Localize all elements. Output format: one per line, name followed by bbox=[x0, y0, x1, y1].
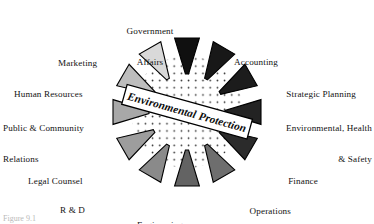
figure-caption: Figure 9.1 bbox=[3, 214, 36, 223]
label-line-1: Accounting bbox=[218, 57, 278, 67]
label-line-1: Public & Community bbox=[3, 123, 107, 133]
label-line-2: Affairs bbox=[120, 57, 180, 67]
label-line-1: Engineering bbox=[122, 220, 198, 224]
figure-environmental-protection-wheel: Environmental Protection Government Affa… bbox=[0, 0, 374, 224]
label-line-2: Relations bbox=[3, 154, 107, 164]
wedge-label-operations: Operations bbox=[221, 185, 291, 224]
label-line-1: Government bbox=[120, 26, 180, 36]
label-line-1: Marketing bbox=[58, 58, 116, 68]
label-line-1: Human Resources bbox=[14, 89, 110, 99]
label-line-1: Environmental, Health bbox=[262, 123, 372, 133]
wedge-label-marketing: Marketing bbox=[58, 37, 116, 89]
label-line-1: Strategic Planning bbox=[256, 89, 356, 99]
wedge-label-engineering: Engineering bbox=[122, 199, 198, 224]
label-line-1: Operations bbox=[221, 206, 291, 216]
wedge-label-government-affairs: Government Affairs bbox=[120, 5, 180, 88]
